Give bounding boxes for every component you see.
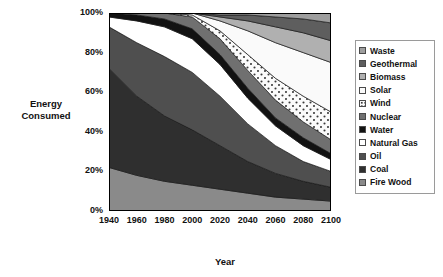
legend-swatch-icon (359, 100, 366, 107)
legend-item-label: Solar (370, 85, 391, 95)
legend-item-nuclear[interactable]: Nuclear (359, 110, 431, 123)
legend-swatch-icon (359, 113, 366, 120)
legend-item-natural-gas[interactable]: Natural Gas (359, 136, 431, 149)
legend-item-geothermal[interactable]: Geothermal (359, 57, 431, 70)
y-tick-40pct: 40% (67, 126, 103, 136)
legend-item-label: Waste (370, 46, 395, 56)
legend-item-solar[interactable]: Solar (359, 84, 431, 97)
legend-item-fire-wood[interactable]: Fire Wood (359, 176, 431, 189)
legend-swatch-icon (359, 126, 366, 133)
legend-swatch-icon (359, 139, 366, 146)
y-tick-80pct: 80% (67, 47, 103, 57)
y-tick-0pct: 0% (67, 205, 103, 215)
legend-swatch-icon (359, 47, 366, 54)
x-tick-2100: 2100 (314, 215, 348, 225)
y-axis-title-text: Energy Consumed (21, 98, 70, 121)
legend-item-water[interactable]: Water (359, 123, 431, 136)
legend-item-label: Water (370, 125, 393, 135)
legend-item-label: Geothermal (370, 59, 417, 69)
legend-item-label: Fire Wood (370, 177, 411, 187)
legend-item-label: Biomass (370, 72, 405, 82)
legend-swatch-icon (359, 60, 366, 67)
x-axis-title: Year (150, 256, 300, 267)
plot-area (109, 13, 331, 211)
legend-swatch-icon (359, 179, 366, 186)
y-tick-20pct: 20% (67, 165, 103, 175)
legend-item-label: Natural Gas (370, 138, 418, 148)
legend-swatch-icon (359, 87, 366, 94)
legend-swatch-icon (359, 73, 366, 80)
y-axis-title: Energy Consumed (8, 98, 84, 122)
legend-item-oil[interactable]: Oil (359, 150, 431, 163)
y-tick-60pct: 60% (67, 86, 103, 96)
legend-swatch-icon (359, 153, 366, 160)
x-axis-title-text: Year (215, 256, 235, 267)
legend-item-biomass[interactable]: Biomass (359, 70, 431, 83)
stacked-area-chart (109, 13, 331, 211)
legend-item-label: Nuclear (370, 112, 401, 122)
legend-item-wind[interactable]: Wind (359, 97, 431, 110)
legend-item-waste[interactable]: Waste (359, 44, 431, 57)
y-tick-100pct: 100% (67, 7, 103, 17)
legend-item-label: Coal (370, 164, 388, 174)
chart-legend: WasteGeothermalBiomassSolarWindNuclearWa… (355, 40, 435, 194)
legend-swatch-icon (359, 166, 366, 173)
legend-item-label: Oil (370, 151, 381, 161)
legend-item-label: Wind (370, 98, 391, 108)
legend-item-coal[interactable]: Coal (359, 163, 431, 176)
